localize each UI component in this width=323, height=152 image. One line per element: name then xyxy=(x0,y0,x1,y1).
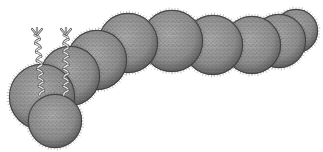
illustration-canvas: Stippled pen-and-ink illustration of a c… xyxy=(0,0,323,152)
cells-layer xyxy=(7,7,321,151)
cell-chain-illustration xyxy=(0,0,323,152)
